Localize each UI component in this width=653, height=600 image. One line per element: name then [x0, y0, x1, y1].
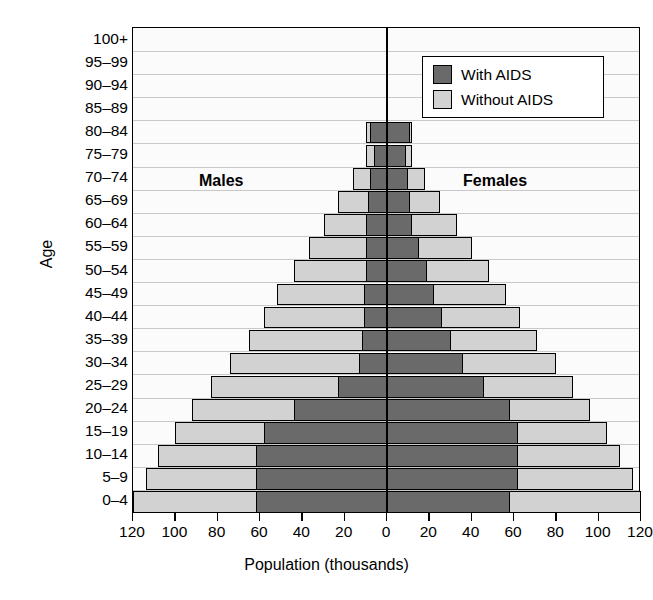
x-tick-label: 40 [293, 524, 310, 540]
y-tick-label: 85–89 [60, 100, 128, 116]
x-tick [259, 512, 260, 521]
x-tick-label: 80 [547, 524, 564, 540]
y-tick-label: 10–14 [60, 446, 128, 462]
bar-segment-with-aids [294, 399, 387, 421]
bar-segment-with-aids [387, 330, 451, 352]
bar-segment-with-aids [256, 445, 387, 467]
bar-segment-with-aids [359, 353, 387, 375]
x-tick [217, 512, 218, 521]
x-tick-label: 120 [119, 524, 145, 540]
x-tick-label: 120 [627, 524, 653, 540]
bar-segment-with-aids [387, 353, 463, 375]
y-tick-label: 100+ [60, 31, 128, 47]
bar-segment-with-aids [387, 376, 484, 398]
bar-segment-with-aids [387, 191, 410, 213]
y-tick-label: 50–54 [60, 262, 128, 278]
bar-segment-with-aids [364, 307, 387, 329]
y-tick-label: 60–64 [60, 215, 128, 231]
legend: With AIDS Without AIDS [422, 56, 604, 118]
x-axis-tick-labels: 12010080604020020406080100120 [132, 524, 640, 544]
bar-segment-with-aids [387, 260, 427, 282]
bar-segment-with-aids [264, 422, 387, 444]
bar-segment-with-aids [366, 237, 387, 259]
legend-swatch-with-aids [433, 65, 452, 84]
males-label: Males [199, 172, 243, 190]
x-tick-label: 0 [382, 524, 391, 540]
plot-area: Males Females With AIDS Without AIDS [132, 27, 640, 512]
legend-item-with-aids: With AIDS [433, 62, 603, 87]
y-tick-label: 90–94 [60, 77, 128, 93]
x-tick [174, 512, 175, 521]
y-tick-label: 55–59 [60, 238, 128, 254]
bar-segment-with-aids [256, 491, 387, 513]
y-tick-label: 20–24 [60, 400, 128, 416]
x-tick-label: 20 [420, 524, 437, 540]
bar-segment-with-aids [387, 122, 410, 144]
y-axis-title: Age [38, 209, 56, 299]
y-tick-label: 25–29 [60, 377, 128, 393]
x-axis-ticks [132, 512, 640, 522]
y-tick-label: 40–44 [60, 308, 128, 324]
y-tick-label: 15–19 [60, 423, 128, 439]
x-tick-label: 60 [504, 524, 521, 540]
bar-segment-with-aids [366, 260, 387, 282]
y-axis-tick-labels: 100+95–9990–9485–8980–8475–7970–7465–696… [60, 27, 128, 512]
y-tick-label: 35–39 [60, 331, 128, 347]
bar-segment-with-aids [366, 214, 387, 236]
bar-segment-with-aids [387, 491, 510, 513]
x-tick-label: 40 [462, 524, 479, 540]
y-tick-label: 75–79 [60, 146, 128, 162]
y-tick-label: 0–4 [60, 492, 128, 508]
bar-segment-with-aids [370, 122, 387, 144]
x-axis-title: Population (thousands) [0, 556, 653, 574]
y-tick-label: 65–69 [60, 192, 128, 208]
y-tick-label: 45–49 [60, 285, 128, 301]
population-pyramid-chart: Age 100+95–9990–9485–8980–8475–7970–7465… [0, 0, 653, 600]
bar-segment-with-aids [387, 237, 419, 259]
x-tick-label: 100 [585, 524, 611, 540]
y-tick-label: 70–74 [60, 169, 128, 185]
bar-segment-with-aids [387, 145, 406, 167]
y-tick-label: 30–34 [60, 354, 128, 370]
x-tick-label: 80 [208, 524, 225, 540]
bar-segment-with-aids [338, 376, 387, 398]
legend-label-without-aids: Without AIDS [461, 92, 553, 108]
bar-segment-with-aids [256, 468, 387, 490]
bar-segment-with-aids [370, 168, 387, 190]
females-label: Females [463, 172, 527, 190]
bar-segment-with-aids [364, 284, 387, 306]
x-tick [428, 512, 429, 521]
x-tick-label: 60 [250, 524, 267, 540]
legend-item-without-aids: Without AIDS [433, 87, 603, 112]
bar-segment-with-aids [387, 399, 510, 421]
legend-swatch-without-aids [433, 90, 452, 109]
y-tick-label: 80–84 [60, 123, 128, 139]
bar-segment-with-aids [374, 145, 387, 167]
bar-segment-with-aids [387, 468, 518, 490]
legend-label-with-aids: With AIDS [461, 67, 532, 83]
x-tick [598, 512, 599, 521]
x-tick [555, 512, 556, 521]
bar-segment-with-aids [387, 307, 442, 329]
x-tick [513, 512, 514, 521]
x-tick [471, 512, 472, 521]
bar-segment-with-aids [387, 445, 518, 467]
x-tick [301, 512, 302, 521]
bar-segment-with-aids [362, 330, 387, 352]
bar-segment-with-aids [368, 191, 387, 213]
x-tick [344, 512, 345, 521]
x-tick [640, 512, 641, 521]
x-tick [386, 512, 387, 521]
bar-segment-with-aids [387, 214, 412, 236]
bar-segment-with-aids [387, 168, 408, 190]
center-axis-line [386, 28, 388, 511]
bar-segment-with-aids [387, 284, 434, 306]
y-tick-label: 5–9 [60, 469, 128, 485]
y-tick-label: 95–99 [60, 54, 128, 70]
x-tick-label: 100 [161, 524, 187, 540]
x-tick [132, 512, 133, 521]
bar-segment-with-aids [387, 422, 518, 444]
x-tick-label: 20 [335, 524, 352, 540]
